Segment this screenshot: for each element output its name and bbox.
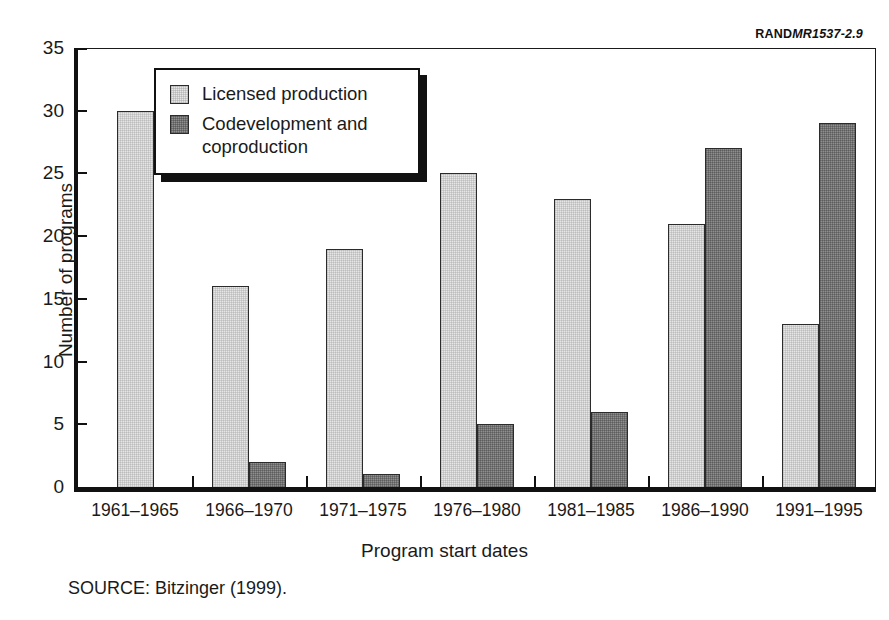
legend-swatch-icon bbox=[170, 115, 189, 134]
legend-item[interactable]: Codevelopment and coproduction bbox=[170, 112, 404, 159]
bar-licensed[interactable] bbox=[782, 324, 819, 487]
bar-codev[interactable] bbox=[705, 148, 742, 487]
x-axis-tick-label: 1961–1965 bbox=[78, 500, 192, 521]
rand-wordmark: RAND bbox=[755, 27, 792, 41]
bar-group bbox=[762, 48, 876, 487]
x-axis-tick-label: 1986–1990 bbox=[648, 500, 762, 521]
chart-legend: Licensed productionCodevelopment and cop… bbox=[154, 68, 420, 175]
x-axis-tick-label: 1966–1970 bbox=[192, 500, 306, 521]
y-axis-tick-label: 35 bbox=[43, 37, 64, 59]
x-axis-tick-label: 1971–1975 bbox=[306, 500, 420, 521]
bar-codev[interactable] bbox=[591, 412, 628, 487]
legend-item[interactable]: Licensed production bbox=[170, 82, 404, 106]
x-axis-tick-mark bbox=[648, 476, 650, 487]
x-axis-tick-label: 1981–1985 bbox=[534, 500, 648, 521]
x-axis-line bbox=[74, 487, 876, 492]
bar-group bbox=[420, 48, 534, 487]
y-axis-tick-label: 0 bbox=[53, 476, 64, 498]
figure-credit: RANDMR1537-2.9 bbox=[755, 27, 863, 41]
bar-licensed[interactable] bbox=[554, 199, 591, 487]
bar-codev[interactable] bbox=[477, 424, 514, 487]
x-axis-tick-mark bbox=[534, 476, 536, 487]
x-axis-tick-mark bbox=[420, 476, 422, 487]
y-axis-tick-label: 25 bbox=[43, 162, 64, 184]
bar-licensed[interactable] bbox=[326, 249, 363, 487]
source-note: SOURCE: Bitzinger (1999). bbox=[68, 578, 287, 599]
x-axis-title: Program start dates bbox=[0, 540, 889, 562]
y-axis-tick-label: 30 bbox=[43, 100, 64, 122]
bar-group bbox=[534, 48, 648, 487]
x-axis-tick-label: 1976–1980 bbox=[420, 500, 534, 521]
bar-group bbox=[648, 48, 762, 487]
legend-swatch-icon bbox=[170, 85, 189, 104]
bar-licensed[interactable] bbox=[440, 173, 477, 487]
bar-codev[interactable] bbox=[363, 474, 400, 487]
bar-licensed[interactable] bbox=[117, 111, 154, 487]
document-number: MR1537-2.9 bbox=[792, 27, 863, 41]
bar-codev[interactable] bbox=[249, 462, 286, 487]
y-axis-tick-label: 5 bbox=[53, 413, 64, 435]
x-axis-tick-mark bbox=[192, 476, 194, 487]
legend-item-label: Licensed production bbox=[202, 82, 368, 106]
bar-licensed[interactable] bbox=[668, 224, 705, 487]
x-axis-tick-labels: 1961–19651966–19701971–19751976–19801981… bbox=[78, 500, 876, 521]
bar-licensed[interactable] bbox=[212, 286, 249, 487]
legend-item-label: Codevelopment and coproduction bbox=[202, 112, 404, 159]
bar-codev[interactable] bbox=[819, 123, 856, 487]
y-axis-title: Number of programs bbox=[55, 183, 77, 357]
x-axis-tick-mark bbox=[762, 476, 764, 487]
x-axis-tick-mark bbox=[306, 476, 308, 487]
x-axis-tick-label: 1991–1995 bbox=[762, 500, 876, 521]
